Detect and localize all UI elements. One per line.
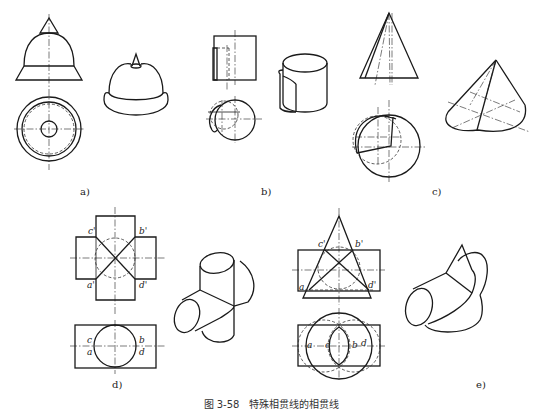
panel-d-pictorial xyxy=(170,250,254,342)
panel-b-top-view xyxy=(206,96,262,143)
panel-b: b) xyxy=(206,30,327,197)
panel-e-pictorial xyxy=(402,245,488,332)
figure-caption: 图 3-58 特殊相贯线的相贯线 xyxy=(0,396,543,411)
point-e-b-top: b xyxy=(352,340,358,350)
point-e-c-top: c xyxy=(325,340,330,350)
panel-e-top-view: a c b d xyxy=(292,308,385,380)
panel-e: c' b' a d' a c b d e) xyxy=(292,208,487,390)
point-a: a xyxy=(87,347,92,357)
panel-b-front-view xyxy=(213,30,256,90)
panel-c-top-view xyxy=(352,100,426,183)
panel-b-pictorial xyxy=(279,54,327,112)
point-e-d-top: d xyxy=(361,338,367,348)
panel-c-pictorial xyxy=(446,60,530,132)
point-a-prime: a' xyxy=(87,280,95,290)
panel-d: c' b' a' d' c a b d d) xyxy=(70,207,254,390)
panel-d-label: d) xyxy=(112,379,122,390)
panel-d-front-view: c' b' a' d' xyxy=(70,207,165,315)
point-e-c-prime: c' xyxy=(318,239,326,249)
panel-c-front-view xyxy=(360,13,418,85)
point-c: c xyxy=(87,335,92,345)
point-d-prime: d' xyxy=(139,280,147,290)
panel-e-front-view: c' b' a d' xyxy=(292,208,385,305)
panel-a-label: a) xyxy=(80,186,90,197)
point-e-a: a xyxy=(299,282,304,292)
point-c-prime: c' xyxy=(88,226,96,236)
panel-e-label: e) xyxy=(476,379,486,390)
point-e-b-prime: b' xyxy=(355,239,363,249)
panel-a: a) xyxy=(14,14,168,197)
point-d: d xyxy=(139,347,145,357)
point-b: b xyxy=(139,335,145,345)
panel-a-front-view xyxy=(16,14,82,170)
panel-a-pictorial xyxy=(104,54,168,115)
panel-d-top-view: c a b d xyxy=(70,320,165,374)
panel-c-label: c) xyxy=(432,186,442,197)
panel-c: c) xyxy=(352,13,530,197)
point-e-a-top: a xyxy=(307,340,312,350)
point-b-prime: b' xyxy=(139,226,147,236)
point-e-d-prime: d' xyxy=(368,280,376,290)
panel-b-label: b) xyxy=(261,186,271,197)
